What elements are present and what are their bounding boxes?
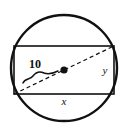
figure-canvas: 10 y x (0, 0, 128, 135)
circle-center-dot (60, 66, 67, 73)
radius-label: 10 (29, 57, 41, 71)
height-label-y: y (102, 64, 108, 76)
geometry-figure: 10 y x (0, 0, 128, 135)
width-label-x: x (61, 95, 67, 107)
